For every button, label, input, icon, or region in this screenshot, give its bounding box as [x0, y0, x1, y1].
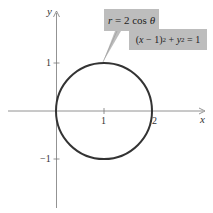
- polar-equation-label: r = 2 cos θ: [104, 9, 159, 31]
- x-tick-label-1: 1: [101, 115, 106, 126]
- x-axis-label: x: [200, 113, 205, 125]
- y-tick-label-neg1: −1: [40, 153, 51, 164]
- x-tick-label-2: 2: [152, 115, 157, 126]
- y-tick-label-1: 1: [46, 57, 51, 68]
- cart-minus: − 1): [144, 34, 163, 45]
- polar-theta: θ: [150, 14, 155, 26]
- cart-plus: +: [166, 34, 177, 45]
- cart-eq: = 1: [185, 34, 201, 45]
- polar-rest: = 2 cos: [112, 14, 149, 26]
- label-pointer-line: [103, 31, 117, 62]
- label-pointer: [103, 31, 121, 62]
- y-axis-label: y: [47, 5, 52, 17]
- cartesian-equation-label: (x − 1)2 + y2 = 1: [129, 29, 207, 50]
